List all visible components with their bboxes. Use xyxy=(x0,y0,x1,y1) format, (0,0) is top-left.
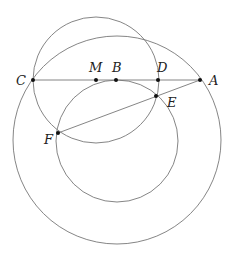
label-E: E xyxy=(166,95,177,110)
point-B xyxy=(114,78,118,82)
point-A xyxy=(198,78,202,82)
point-E xyxy=(154,94,158,98)
point-D xyxy=(156,78,160,82)
label-D: D xyxy=(156,60,168,75)
label-F: F xyxy=(43,132,54,147)
label-M: M xyxy=(88,60,103,75)
segment-AF xyxy=(58,80,200,133)
label-B: B xyxy=(111,60,122,75)
label-A: A xyxy=(208,73,218,88)
geometry-diagram: C M B D A E F xyxy=(0,0,233,257)
label-C: C xyxy=(16,73,26,88)
point-M xyxy=(94,78,98,82)
point-C xyxy=(31,78,35,82)
point-F xyxy=(56,131,60,135)
inner-circle xyxy=(56,80,178,202)
